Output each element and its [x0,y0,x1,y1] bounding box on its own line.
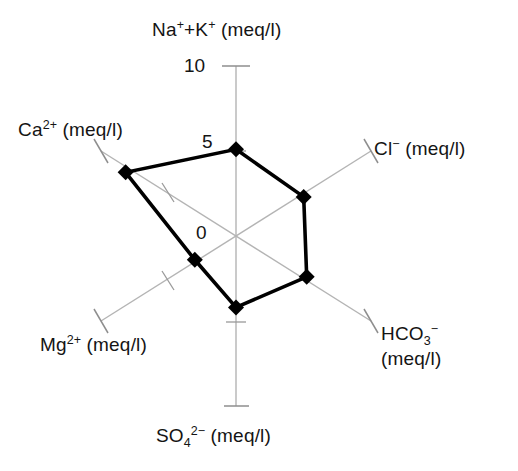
axis-label-so4: SO42− (meq/l) [156,424,271,450]
axis-label-cl: Cl− (meq/l) [374,137,466,160]
axis-label-hco3-unit: (meq/l) [381,348,442,369]
axis-label-na-k-text: Na++K+ (meq/l) [152,19,282,40]
axis-label-na-k: Na++K+ (meq/l) [152,18,282,41]
tick-end-ca [94,139,108,163]
tick-mid-mg [162,271,174,290]
axis-label-ca-text: Ca2+ (meq/l) [18,119,123,140]
axis-label-so4-text: SO42− (meq/l) [156,425,271,446]
radar-chart: Na++K+ (meq/l) Ca2+ (meq/l) Cl− (meq/l) … [0,0,518,471]
axis-label-ca: Ca2+ (meq/l) [18,118,123,141]
tick-end-hco3 [364,309,378,333]
tick-end-mg [94,309,108,333]
radial-tick-label-0: 0 [196,222,207,244]
axis-label-cl-text: Cl− (meq/l) [374,138,466,159]
axis-label-mg-text: Mg2+ (meq/l) [40,334,147,355]
axis-label-hco3: HCO3−(meq/l) [381,322,442,369]
data-marker-hco3 [299,269,315,285]
tick-mid-ca [162,183,174,202]
radar-chart-canvas [0,0,518,471]
axis-label-mg: Mg2+ (meq/l) [40,333,147,356]
axis-label-hco3-text: HCO3− [381,323,438,344]
radial-tick-label-10: 10 [184,55,205,77]
radial-tick-label-5: 5 [202,131,213,153]
data-polygon [126,149,307,307]
